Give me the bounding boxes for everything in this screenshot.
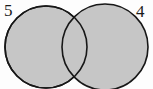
venn-label-left: 5 [4, 2, 13, 19]
venn-circles-canvas [0, 0, 153, 89]
venn-diagram: 5 4 [0, 0, 153, 89]
venn-label-right: 4 [136, 3, 145, 20]
